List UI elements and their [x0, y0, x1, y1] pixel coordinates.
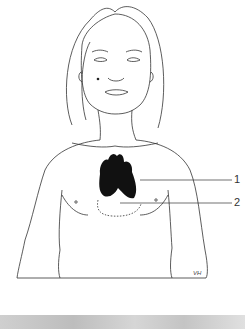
label-1: 1 [234, 174, 240, 185]
torso-drawing [0, 0, 245, 329]
artist-signature: VH [193, 270, 201, 276]
label-2: 2 [234, 197, 240, 208]
anatomy-figure: 1 2 VH [0, 0, 245, 329]
background-strip [0, 315, 245, 329]
